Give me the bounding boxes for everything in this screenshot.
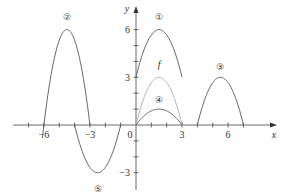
curves (42, 30, 243, 173)
curve-label: ⑤ (94, 184, 102, 194)
x-tick-label: 6 (226, 129, 231, 140)
x-tick-label: 3 (180, 129, 185, 140)
x-tick-label: −6 (39, 129, 50, 140)
curve-curve-4 (136, 109, 182, 125)
curve-curve-2 (42, 30, 90, 139)
y-axis-arrow-icon (134, 6, 139, 13)
x-axis-arrow-icon (270, 123, 277, 128)
function-transformations-chart: −6−303663−3xyf①②③④⑤ (0, 0, 292, 196)
curve-label-f: f (158, 59, 162, 70)
axes (13, 6, 277, 190)
x-axis-label: x (271, 129, 277, 140)
curve-curve-5 (75, 125, 121, 173)
curve-label: ④ (155, 95, 163, 105)
x-tick-label: 0 (128, 129, 133, 140)
curve-label: ② (63, 12, 71, 22)
labels: −6−303663−3xyf①②③④⑤ (39, 3, 277, 194)
curve-curve-3 (197, 77, 243, 125)
x-tick-label: −3 (85, 129, 96, 140)
y-axis-label: y (124, 3, 130, 14)
curve-label: ① (155, 12, 163, 22)
y-tick-label: −3 (119, 167, 130, 178)
y-tick-label: 6 (125, 24, 130, 35)
curve-curve-1 (136, 30, 182, 78)
curve-label: ③ (216, 62, 224, 72)
y-tick-label: 3 (125, 72, 130, 83)
